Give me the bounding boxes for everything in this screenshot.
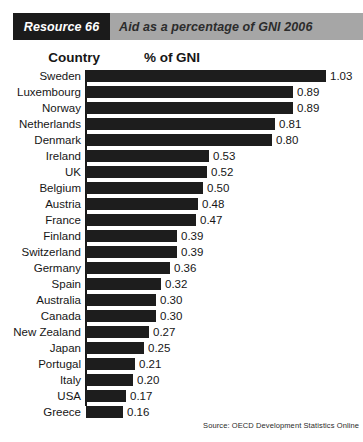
bar-category-label: Australia <box>0 294 81 306</box>
bar <box>86 342 144 354</box>
bar-category-label: Austria <box>0 198 81 210</box>
bar-category-label: Japan <box>0 342 81 354</box>
bar-row: Germany0.36 <box>0 262 363 278</box>
bar <box>86 102 293 114</box>
bar-row: Netherlands0.81 <box>0 118 363 134</box>
bar <box>86 246 177 258</box>
bar-category-label: Luxembourg <box>0 86 81 98</box>
resource-number-tag: Resource 66 <box>13 13 110 40</box>
bar <box>86 214 196 226</box>
bar-value-label: 0.17 <box>130 390 152 402</box>
bar <box>86 294 156 306</box>
bar-category-label: New Zealand <box>0 326 81 338</box>
bar-row: Denmark0.80 <box>0 134 363 150</box>
bar-category-label: Belgium <box>0 182 81 194</box>
bar-row: Italy0.20 <box>0 374 363 390</box>
bar-row: Ireland0.53 <box>0 150 363 166</box>
bar-category-label: Spain <box>0 278 81 290</box>
bar <box>86 326 149 338</box>
bar <box>86 406 123 418</box>
bar-value-label: 0.89 <box>297 102 319 114</box>
bar <box>86 150 209 162</box>
bar-value-label: 0.36 <box>174 262 196 274</box>
bar-row: Norway0.89 <box>0 102 363 118</box>
bar-row: Spain0.32 <box>0 278 363 294</box>
bar-category-label: Canada <box>0 310 81 322</box>
bar-category-label: Italy <box>0 374 81 386</box>
bar-value-label: 0.89 <box>297 86 319 98</box>
bar-row: New Zealand0.27 <box>0 326 363 342</box>
bar-row: Sweden1.03 <box>0 70 363 86</box>
bar-row: France0.47 <box>0 214 363 230</box>
bar-value-label: 0.39 <box>181 230 203 242</box>
bar <box>86 374 133 386</box>
bar <box>86 134 272 146</box>
bar <box>86 166 207 178</box>
bar-category-label: France <box>0 214 81 226</box>
bar-row: Australia0.30 <box>0 294 363 310</box>
bar-value-label: 1.03 <box>330 70 352 82</box>
bar <box>86 198 198 210</box>
bar <box>86 358 135 370</box>
bar-category-label: Switzerland <box>0 246 81 258</box>
bar <box>86 278 161 290</box>
bar-value-label: 0.81 <box>279 118 301 130</box>
bar-rows-container: Sweden1.03Luxembourg0.89Norway0.89Nether… <box>0 70 363 422</box>
bar-row: USA0.17 <box>0 390 363 406</box>
bar-value-label: 0.21 <box>139 358 161 370</box>
bar-category-label: USA <box>0 390 81 402</box>
bar-value-label: 0.25 <box>148 342 170 354</box>
bar-value-label: 0.48 <box>202 198 224 210</box>
bar-value-label: 0.30 <box>160 310 182 322</box>
bar <box>86 262 170 274</box>
bar-category-label: Portugal <box>0 358 81 370</box>
column-headers: Country % of GNI <box>0 50 363 68</box>
bar-category-label: UK <box>0 166 81 178</box>
bar-value-label: 0.39 <box>181 246 203 258</box>
bar-row: Belgium0.50 <box>0 182 363 198</box>
bar-row: Canada0.30 <box>0 310 363 326</box>
bar <box>86 230 177 242</box>
bar-row: Luxembourg0.89 <box>0 86 363 102</box>
bar-row: UK0.52 <box>0 166 363 182</box>
bar-category-label: Netherlands <box>0 118 81 130</box>
bar-value-label: 0.20 <box>137 374 159 386</box>
bar-category-label: Ireland <box>0 150 81 162</box>
bar-row: Greece0.16 <box>0 406 363 422</box>
chart-title: Aid as a percentage of GNI 2006 <box>110 13 363 40</box>
bar-value-label: 0.16 <box>127 406 149 418</box>
bar <box>86 86 293 98</box>
header-banner: Resource 66 Aid as a percentage of GNI 2… <box>13 13 363 40</box>
bar-category-label: Germany <box>0 262 81 274</box>
bar-value-label: 0.47 <box>200 214 222 226</box>
bar-value-label: 0.50 <box>207 182 229 194</box>
bar-row: Austria0.48 <box>0 198 363 214</box>
column-header-country: Country <box>0 50 100 65</box>
bar-row: Japan0.25 <box>0 342 363 358</box>
bar-row: Portugal0.21 <box>0 358 363 374</box>
bar <box>86 310 156 322</box>
bar-category-label: Greece <box>0 406 81 418</box>
bar <box>86 182 203 194</box>
column-header-percent-of-gni: % of GNI <box>118 50 226 65</box>
bar-row: Finland0.39 <box>0 230 363 246</box>
bar-category-label: Sweden <box>0 70 81 82</box>
bar-value-label: 0.30 <box>160 294 182 306</box>
bar-category-label: Finland <box>0 230 81 242</box>
bar-chart: Sweden1.03Luxembourg0.89Norway0.89Nether… <box>0 70 363 422</box>
bar-value-label: 0.32 <box>165 278 187 290</box>
bar-category-label: Denmark <box>0 134 81 146</box>
bar-value-label: 0.80 <box>276 134 298 146</box>
bar <box>86 70 326 82</box>
bar <box>86 118 275 130</box>
bar-value-label: 0.53 <box>213 150 235 162</box>
bar <box>86 390 126 402</box>
bar-row: Switzerland0.39 <box>0 246 363 262</box>
bar-value-label: 0.27 <box>153 326 175 338</box>
bar-value-label: 0.52 <box>211 166 233 178</box>
bar-category-label: Norway <box>0 102 81 114</box>
source-note: Source: OECD Development Statistics Onli… <box>203 421 359 430</box>
